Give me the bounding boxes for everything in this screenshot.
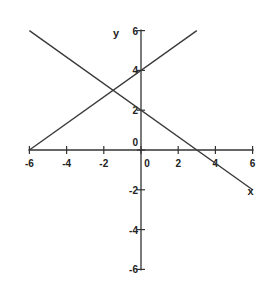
y-axis-label: y	[113, 27, 120, 39]
x-tick-label: -2	[99, 158, 108, 169]
y-tick-label: -4	[129, 225, 138, 236]
x-tick-label: 0	[144, 158, 150, 169]
x-tick-label: 2	[175, 158, 181, 169]
y-tick-label: -2	[129, 185, 138, 196]
x-tick-label: -4	[62, 158, 71, 169]
chart: -6-4-20246 -6-4-20246 y x	[0, 0, 270, 301]
x-tick-label: 6	[250, 158, 256, 169]
x-tick-label: -6	[25, 158, 34, 169]
y-tick-label: 6	[132, 26, 138, 37]
y-tick-label: 0	[132, 137, 138, 148]
x-axis-label: x	[248, 185, 255, 197]
y-tick-label: -6	[129, 264, 138, 275]
